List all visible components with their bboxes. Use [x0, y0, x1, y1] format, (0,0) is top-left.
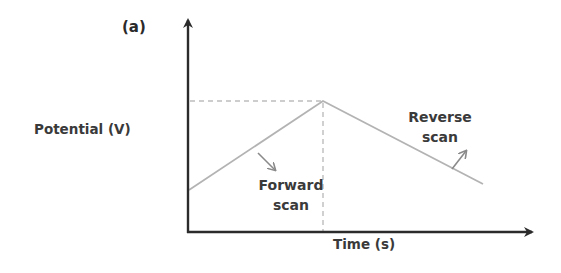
reverse-scan-label-line1: Reverse — [400, 107, 480, 127]
forward-scan-label: Forward scan — [251, 175, 331, 215]
cyclic-voltammetry-waveform-diagram: (a) Potential (V) Time (s) Forward scan … — [0, 0, 561, 273]
forward-scan-label-line2: scan — [251, 195, 331, 215]
y-axis-label: Potential (V) — [34, 121, 131, 137]
reverse-scan-label: Reverse scan — [400, 107, 480, 147]
reverse-scan-label-line2: scan — [400, 127, 480, 147]
panel-label: (a) — [122, 18, 146, 36]
forward-scan-label-line1: Forward — [251, 175, 331, 195]
x-axis-label: Time (s) — [333, 236, 395, 252]
forward-scan-arrow-icon — [258, 153, 275, 170]
reverse-scan-arrow-icon — [452, 151, 466, 169]
